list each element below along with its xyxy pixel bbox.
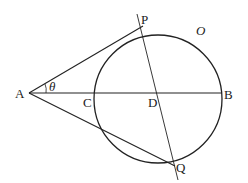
- label-d: D: [148, 95, 157, 110]
- label-theta: θ: [49, 79, 56, 94]
- label-b: B: [224, 87, 233, 102]
- chord-pq: [137, 14, 178, 180]
- angle-arc: [45, 84, 46, 93]
- label-c: C: [83, 95, 92, 110]
- label-a: A: [15, 86, 25, 101]
- label-q: Q: [176, 160, 186, 175]
- geometry-diagram: A P Q B C D O θ: [0, 0, 248, 183]
- tangent-ap: [29, 26, 143, 93]
- label-circle-o: O: [196, 23, 206, 38]
- label-p: P: [141, 12, 148, 27]
